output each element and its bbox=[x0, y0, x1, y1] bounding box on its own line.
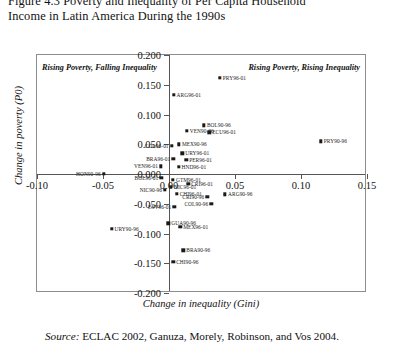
data-point bbox=[167, 222, 170, 225]
data-point bbox=[160, 176, 163, 179]
y-axis-tick-label: 0.150 bbox=[137, 79, 161, 90]
data-point-label: HND96-01 bbox=[182, 164, 207, 170]
data-point bbox=[170, 144, 173, 147]
data-point-label: ARG96-01 bbox=[177, 92, 201, 98]
data-point-label: BOL96-01 bbox=[135, 175, 159, 181]
y-axis-tick-label: 0.200 bbox=[137, 50, 161, 61]
data-point bbox=[175, 192, 178, 195]
data-point-label: CRI90-96 bbox=[182, 194, 204, 200]
y-axis-tick bbox=[164, 115, 169, 116]
chart-plot-area: -0.10-0.050.000.050.100.150.2000.1500.10… bbox=[36, 54, 366, 292]
data-point-label: URY90-96 bbox=[115, 226, 139, 232]
data-point bbox=[172, 157, 175, 160]
data-point-label: CHI90-96 bbox=[176, 259, 198, 265]
y-axis-tick bbox=[164, 293, 169, 294]
x-axis-title: Change in inequality (Gini) bbox=[36, 298, 366, 309]
figure-title: Figure 4.3 Poverty and Inequality of Per… bbox=[8, 0, 393, 23]
x-axis-tick bbox=[367, 174, 368, 179]
x-axis-tick-label: -0.10 bbox=[26, 180, 48, 191]
data-point bbox=[180, 151, 183, 154]
data-point-label: PER96-01 bbox=[189, 157, 212, 163]
data-point bbox=[319, 140, 322, 143]
x-axis-tick-label: 0.15 bbox=[358, 180, 376, 191]
figure-title-line-2: Income in Latin America During the 1990s bbox=[8, 9, 393, 24]
y-axis-title: Change in poverty (P0) bbox=[13, 56, 24, 216]
data-point bbox=[177, 143, 180, 146]
data-point-label: ARG90-96 bbox=[228, 191, 252, 197]
data-point bbox=[172, 260, 175, 263]
source-note: Source: ECLAC 2002, Ganuza, Morely, Robi… bbox=[45, 330, 339, 342]
data-point bbox=[159, 165, 162, 168]
data-point bbox=[102, 172, 105, 175]
y-axis-tick bbox=[164, 85, 169, 86]
x-axis-tick bbox=[37, 174, 38, 179]
data-point bbox=[163, 188, 166, 191]
data-point-label: COL96-01 bbox=[145, 143, 169, 149]
data-point bbox=[208, 131, 211, 134]
x-axis-tick-label: -0.05 bbox=[92, 180, 114, 191]
x-axis-tick bbox=[301, 174, 302, 179]
annotation-rising-poverty-falling-inequality: Rising Poverty, Falling Inequality bbox=[42, 63, 157, 72]
y-axis-tick bbox=[164, 234, 169, 235]
data-point bbox=[177, 165, 180, 168]
source-keyword: Source: bbox=[45, 330, 79, 342]
y-axis-tick bbox=[164, 55, 169, 56]
data-point bbox=[179, 225, 182, 228]
data-point bbox=[206, 195, 209, 198]
data-point bbox=[218, 76, 221, 79]
data-point bbox=[169, 185, 172, 188]
data-point-label: BRA96-01 bbox=[146, 156, 170, 162]
data-point-label: PRY96-01 bbox=[223, 75, 246, 81]
scatter-plot: -0.10-0.050.000.050.100.150.2000.1500.10… bbox=[37, 55, 365, 291]
data-point bbox=[110, 227, 113, 230]
x-axis-tick-label: 0.05 bbox=[226, 180, 244, 191]
data-point bbox=[173, 205, 176, 208]
data-point-label: BRA90-96 bbox=[186, 247, 210, 253]
data-point bbox=[223, 193, 226, 196]
data-point-label: ESV96-01 bbox=[148, 204, 171, 210]
source-text: ECLAC 2002, Ganuza, Morely, Robinson, an… bbox=[79, 330, 339, 342]
x-axis-tick bbox=[169, 174, 170, 179]
data-point bbox=[182, 248, 185, 251]
data-point-label: PRY90-96 bbox=[324, 138, 347, 144]
y-axis-tick-label: -0.200 bbox=[134, 288, 161, 299]
data-point-label: VEN96-01 bbox=[134, 163, 158, 169]
data-point bbox=[202, 124, 205, 127]
y-axis-tick bbox=[164, 174, 169, 175]
figure-container: Figure 4.3 Poverty and Inequality of Per… bbox=[0, 0, 395, 362]
data-point bbox=[172, 93, 175, 96]
data-point-label: MEX90-96 bbox=[182, 141, 207, 147]
figure-title-line-1: Figure 4.3 Poverty and Inequality of Per… bbox=[8, 0, 393, 9]
x-axis-tick-label: 0.10 bbox=[292, 180, 310, 191]
y-axis-line bbox=[169, 55, 170, 291]
data-point bbox=[184, 158, 187, 161]
data-point-label: NIC96-01 bbox=[174, 184, 196, 190]
data-point-label: COL90-96 bbox=[184, 201, 208, 207]
data-point-label: MEX96-01 bbox=[183, 224, 208, 230]
data-point-label: NIC90-96 bbox=[140, 187, 162, 193]
annotation-rising-poverty-rising-inequality: Rising Poverty, Rising Inequality bbox=[248, 63, 360, 72]
y-axis-tick-label: 0.100 bbox=[137, 109, 161, 120]
data-point bbox=[185, 129, 188, 132]
x-axis-tick bbox=[235, 174, 236, 179]
data-point-label: HON90-96 bbox=[76, 171, 101, 177]
data-point bbox=[210, 202, 213, 205]
data-point-label: ECU96-01 bbox=[212, 129, 236, 135]
data-point-label: URY96-01 bbox=[185, 150, 209, 156]
y-axis-tick bbox=[164, 263, 169, 264]
data-point bbox=[171, 178, 174, 181]
y-axis-tick-label: -0.150 bbox=[134, 258, 161, 269]
